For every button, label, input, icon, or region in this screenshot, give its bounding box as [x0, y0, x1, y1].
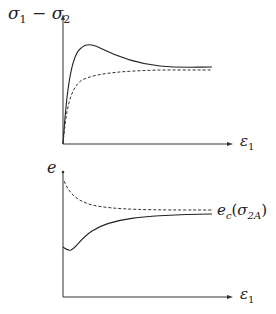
bottom-plot [62, 171, 233, 299]
bottom-y-axis-label: e [47, 160, 56, 176]
top-dashed-curve [63, 70, 212, 144]
diagram-canvas [0, 0, 276, 314]
critical-void-ratio-label: ec(σ2A) [217, 203, 267, 221]
curve-label-arg-sub: 2A [248, 210, 262, 221]
bottom-dashed-curve [64, 181, 212, 210]
top-x-axis-label: ε1 [240, 134, 254, 152]
top-x-arrow-icon [227, 142, 233, 146]
bottom-x-arrow-icon [227, 295, 233, 299]
top-solid-curve [63, 45, 212, 144]
bottom-y-arrow-icon [62, 171, 65, 174]
curve-label-e: e [217, 201, 226, 219]
bottom-solid-curve [63, 214, 212, 250]
top-y-axis-label: σ1 − σ2 [8, 5, 70, 25]
top-plot [61, 14, 233, 146]
bottom-x-axis-label: ε1 [240, 287, 254, 305]
